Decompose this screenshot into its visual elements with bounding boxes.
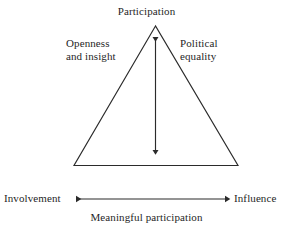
participation-triangle-diagram: Participation Openness and insight Polit… — [0, 0, 293, 233]
right-side-label-political-equality: Political equality — [180, 37, 218, 62]
left-side-label-openness-and-insight: Openness and insight — [66, 37, 116, 62]
axis-caption-meaningful-participation: Meaningful participation — [0, 211, 293, 224]
apex-label-participation: Participation — [0, 5, 293, 18]
left-side-label-line1: Openness — [66, 37, 116, 50]
right-side-label-line1: Political — [180, 37, 218, 50]
axis-label-influence: Influence — [234, 192, 276, 205]
left-side-label-line2: and insight — [66, 50, 116, 63]
right-side-label-line2: equality — [180, 50, 218, 63]
axis-label-involvement: Involvement — [4, 192, 61, 205]
